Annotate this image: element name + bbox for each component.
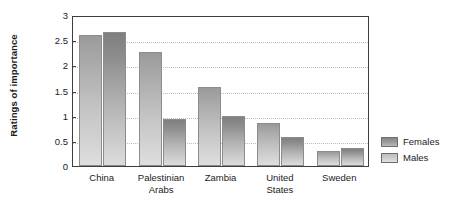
bar-males-sweden	[341, 148, 364, 166]
x-axis-label-china: China	[72, 172, 131, 184]
x-axis-label-palestinian-arabs: PalestinianArabs	[131, 172, 190, 195]
bar-females-united-states	[257, 123, 280, 166]
x-axis-label-sweden: Sweden	[310, 172, 369, 184]
y-axis-tick-label: 1	[44, 112, 68, 122]
legend-label-males: Males	[403, 152, 428, 163]
bar-females-palestinian-arabs	[139, 52, 162, 166]
y-axis-tick-mark	[72, 66, 76, 67]
y-axis-tick-mark	[72, 92, 76, 93]
legend-item-females: Females	[381, 136, 453, 147]
y-axis-tick-labels: 00.511.522.53	[40, 16, 68, 167]
x-axis-label-zambia: Zambia	[191, 172, 250, 184]
bar-males-palestinian-arabs	[163, 119, 186, 166]
bar-males-zambia	[222, 116, 245, 166]
y-axis-title-text: Ratings of importance	[8, 34, 19, 136]
y-axis-tick-label: 2.5	[44, 36, 68, 46]
legend-item-males: Males	[381, 152, 453, 163]
bar-chart: Ratings of importance 00.511.522.53 Chin…	[0, 0, 457, 210]
y-axis-tick-mark	[72, 117, 76, 118]
legend-label-females: Females	[403, 136, 439, 147]
plot-inner	[73, 17, 368, 166]
x-axis-label-united-states: UnitedStates	[250, 172, 309, 195]
chart-legend: FemalesMales	[381, 136, 453, 168]
bar-females-zambia	[198, 87, 221, 166]
legend-swatch-males	[381, 153, 398, 163]
y-axis-tick-mark	[72, 142, 76, 143]
y-axis-tick-label: 3	[44, 11, 68, 21]
y-axis-tick-mark	[72, 41, 76, 42]
y-axis-tick-label: 0	[44, 162, 68, 172]
y-axis-tick-label: 0.5	[44, 137, 68, 147]
y-axis-tick-label: 2	[44, 62, 68, 72]
bar-females-china	[79, 35, 102, 166]
bar-males-united-states	[281, 137, 304, 166]
y-axis-tick-label: 1.5	[44, 87, 68, 97]
legend-swatch-females	[381, 137, 398, 147]
bar-males-china	[103, 32, 126, 166]
y-axis-title: Ratings of importance	[0, 0, 26, 170]
bar-females-sweden	[317, 151, 340, 166]
plot-area	[72, 16, 369, 167]
